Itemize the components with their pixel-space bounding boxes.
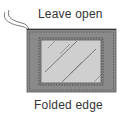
thread-tail-icon	[8, 10, 29, 30]
folded-edge-label: Folded edge	[34, 98, 103, 112]
leave-open-label: Leave open	[38, 7, 103, 21]
